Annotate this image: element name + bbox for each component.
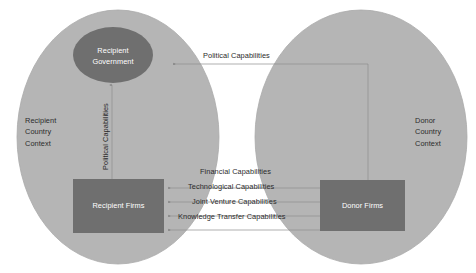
diagram-canvas: Recipient Country Context Donor Country … bbox=[0, 0, 476, 273]
donor-country-line-3: Context bbox=[415, 138, 441, 149]
recipient-government-label: Recipient Government bbox=[73, 45, 153, 68]
donor-country-line-2: Country bbox=[415, 126, 441, 137]
donor-country-context-label: Donor Country Context bbox=[415, 115, 441, 149]
donor-firms-text: Donor Firms bbox=[320, 201, 405, 212]
recipient-government-line-1: Recipient bbox=[73, 45, 153, 56]
diagram-svg bbox=[0, 0, 476, 273]
recipient-country-line-1: Recipient bbox=[25, 115, 56, 126]
recipient-country-line-3: Context bbox=[25, 138, 56, 149]
donor-firms-label: Donor Firms bbox=[320, 201, 405, 212]
recipient-government-line-2: Government bbox=[73, 56, 153, 67]
knowledge-transfer-capabilities-label: Knowledge Transfer Capabilities bbox=[178, 212, 286, 223]
technological-capabilities-label: Technological Capabilities bbox=[188, 182, 274, 193]
recipient-country-context-label: Recipient Country Context bbox=[25, 115, 56, 149]
financial-capabilities-label: Financial Capabilities bbox=[200, 167, 271, 178]
donor-country-line-1: Donor bbox=[415, 115, 441, 126]
political-capabilities-top-label: Political Capabilities bbox=[203, 51, 270, 62]
recipient-firms-text: Recipient Firms bbox=[73, 201, 164, 212]
recipient-country-line-2: Country bbox=[25, 126, 56, 137]
political-capabilities-vertical-label: Political Capabilities bbox=[101, 103, 110, 170]
joint-venture-capabilities-label: Joint Venture Capabilities bbox=[192, 197, 277, 208]
recipient-firms-label: Recipient Firms bbox=[73, 201, 164, 212]
